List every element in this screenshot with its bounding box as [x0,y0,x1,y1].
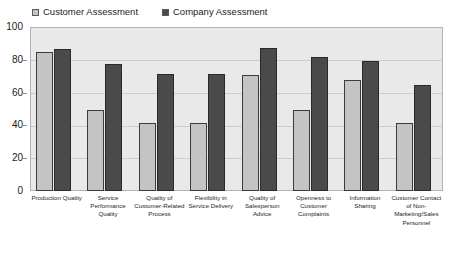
bar-group [82,28,133,191]
x-axis-label: Quality of Salesperson Advice [237,194,288,219]
bar-customer-assessment [396,123,413,191]
y-tick-mark-20 [23,158,27,159]
x-axis-category-labels: Production QualityService Performance Qu… [31,194,442,258]
bar-customer-assessment [344,80,361,191]
y-tick-label-20: 20 [12,153,23,163]
x-axis-label: Production Quality [31,194,82,202]
bar-customer-assessment [36,52,53,191]
x-axis-label: Service Performance Quality [82,194,133,219]
bar-company-assessment [54,49,71,191]
bar-customer-assessment [190,123,207,191]
legend-label-company: Company Assessment [173,7,268,17]
legend-item-customer-assessment: Customer Assessment [32,6,138,18]
bar-group [185,28,236,191]
bar-customer-assessment [293,110,310,192]
bar-company-assessment [260,48,277,191]
bar-customer-assessment [242,75,259,191]
x-axis-label: Information Sharing [339,194,390,210]
bar-group [237,28,288,191]
legend-swatch-icon-customer [32,9,39,16]
y-tick-label-40: 40 [12,120,23,130]
legend-swatch-icon-company [162,9,169,16]
bar-company-assessment [414,85,431,191]
x-axis-label: Openness to Customer Complaints [288,194,339,219]
bar-customer-assessment [87,110,104,192]
y-tick-label-0: 0 [17,186,23,196]
chart-legend: Customer Assessment Company Assessment [0,0,455,24]
legend-item-company-assessment: Company Assessment [162,6,268,18]
bar-group [288,28,339,191]
y-tick-label-100: 100 [6,22,23,32]
y-tick-label-60: 60 [12,88,23,98]
x-axis-label: Quality of Customer-Related Process [134,194,185,219]
y-tick-label-80: 80 [12,55,23,65]
y-tick-mark-40 [23,125,27,126]
bar-chart: Customer Assessment Company Assessment 1… [0,0,455,259]
legend-label-customer: Customer Assessment [43,7,138,17]
bar-group [339,28,390,191]
bar-group [31,28,82,191]
y-tick-mark-80 [23,60,27,61]
x-axis-label: Flexibility in Service Delivery [185,194,236,210]
bar-company-assessment [311,57,328,191]
bar-group [391,28,442,191]
y-axis: 100 80 60 40 20 0 [0,27,27,191]
bar-company-assessment [362,61,379,191]
bar-group [134,28,185,191]
x-axis-label: Customer Contact of Non-Marketing/Sales … [391,194,442,227]
bars-layer [31,28,442,191]
bar-company-assessment [105,64,122,191]
bar-customer-assessment [139,123,156,191]
bar-company-assessment [208,74,225,191]
y-tick-mark-60 [23,93,27,94]
bar-company-assessment [157,74,174,191]
